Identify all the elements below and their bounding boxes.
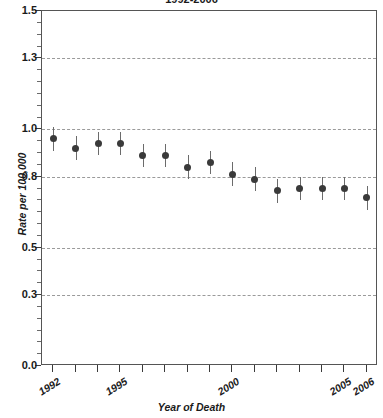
gridline [42, 177, 376, 178]
x-axis-tick [276, 365, 277, 372]
gridline [42, 295, 376, 296]
data-point-marker [229, 171, 236, 178]
x-axis-tick [142, 365, 143, 372]
data-point-marker [296, 185, 303, 192]
x-axis-tick [119, 365, 120, 372]
y-axis-tick-label: 0.3 [0, 288, 37, 300]
data-point-marker [319, 185, 326, 192]
data-point-marker [274, 187, 281, 194]
x-axis-tick [187, 365, 188, 372]
data-point-marker [50, 135, 57, 142]
data-point-marker [207, 159, 214, 166]
gridline [42, 248, 376, 249]
gridline [42, 58, 376, 59]
x-axis-label: Year of Death [0, 401, 383, 413]
x-axis-tick [321, 365, 322, 372]
plot-area [41, 10, 377, 365]
data-point-marker [341, 185, 348, 192]
data-point-marker [139, 152, 146, 159]
y-axis-tick-label: 0.0 [0, 359, 37, 371]
y-axis-tick-label: 0.5 [0, 241, 37, 253]
y-axis-tick-label: 1.3 [0, 51, 37, 63]
x-axis-tick [97, 365, 98, 372]
data-point-marker [162, 152, 169, 159]
data-point-marker [95, 140, 102, 147]
y-axis-tick-label: 0.8 [0, 170, 37, 182]
x-axis-tick [164, 365, 165, 372]
x-axis-tick [75, 365, 76, 372]
x-axis-tick [343, 365, 344, 372]
x-axis-tick-label: 2000 [210, 375, 242, 401]
x-axis-tick [299, 365, 300, 372]
x-axis-tick-label: 1995 [98, 375, 130, 401]
y-axis-tick-label: 1.0 [0, 122, 37, 134]
data-point-marker [251, 176, 258, 183]
x-axis-tick [366, 365, 367, 372]
data-point-marker [363, 194, 370, 201]
gridline [42, 129, 376, 130]
data-point-marker [184, 164, 191, 171]
x-axis-tick [254, 365, 255, 372]
chart-figure: 1992-2006 Rate per 100,000 Year of Death… [0, 0, 383, 418]
y-axis-tick-label: 1.5 [0, 4, 37, 16]
x-axis-tick [209, 365, 210, 372]
data-point-marker [117, 140, 124, 147]
chart-title: 1992-2006 [0, 0, 383, 5]
x-axis-tick [231, 365, 232, 372]
x-axis-tick [52, 365, 53, 372]
data-point-marker [72, 145, 79, 152]
x-axis-tick-label: 1992 [31, 375, 63, 401]
